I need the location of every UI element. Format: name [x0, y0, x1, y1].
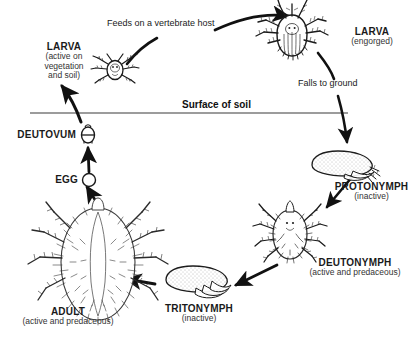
stage-label-tritonymph: TRITONYMPH (inactive) — [147, 303, 251, 324]
larva-engorged-illustration — [256, 0, 328, 60]
arrow-deutovum-to-larva — [62, 86, 81, 122]
stage-sub-larva-active-line3: and soil) — [28, 71, 100, 81]
stage-sub-protonymph: (inactive) — [329, 192, 414, 202]
stage-name-egg: EGG — [30, 174, 78, 185]
arrow-deuto-to-trito — [236, 265, 277, 285]
protonymph-illustration — [312, 151, 380, 182]
falls-arrow-lower — [338, 96, 347, 142]
stage-label-egg: EGG — [30, 174, 78, 185]
tritonymph-illustration — [166, 266, 231, 298]
stage-sub-deutonymph: (active and predaceous) — [296, 268, 414, 278]
stage-label-larva-active: LARVA (active on vegetation and soil) — [28, 41, 100, 81]
feeds-arc-left — [127, 38, 157, 64]
deutovum-illustration — [82, 125, 95, 144]
stage-label-deutonymph: DEUTONYMPH (active and predaceous) — [296, 257, 414, 278]
stage-sub-tritonymph: (inactive) — [147, 314, 251, 324]
falls-arrow-upper — [318, 53, 334, 79]
falls-to-ground-label: Falls to ground — [298, 78, 358, 88]
stage-label-larva-engorged: LARVA (engorged) — [336, 26, 408, 47]
stage-label-protonymph: PROTONYMPH (inactive) — [329, 181, 414, 202]
stage-sub-larva-engorged: (engorged) — [336, 37, 408, 47]
deutonymph-illustration — [253, 201, 327, 263]
surface-of-soil-label: Surface of soil — [182, 99, 251, 110]
egg-illustration — [83, 174, 96, 187]
feeds-on-host-label: Feeds on a vertebrate host — [107, 18, 215, 28]
life-cycle-diagram: Feeds on a vertebrate host Falls to grou… — [0, 0, 414, 344]
arrow-egg-to-deutovum — [88, 148, 89, 172]
stage-sub-adult: (active and predaceous) — [9, 317, 127, 327]
stage-name-deutovum: DEUTOVUM — [2, 129, 76, 140]
stage-label-deutovum: DEUTOVUM — [2, 129, 76, 140]
stage-label-adult: ADULT (active and predaceous) — [9, 306, 127, 327]
